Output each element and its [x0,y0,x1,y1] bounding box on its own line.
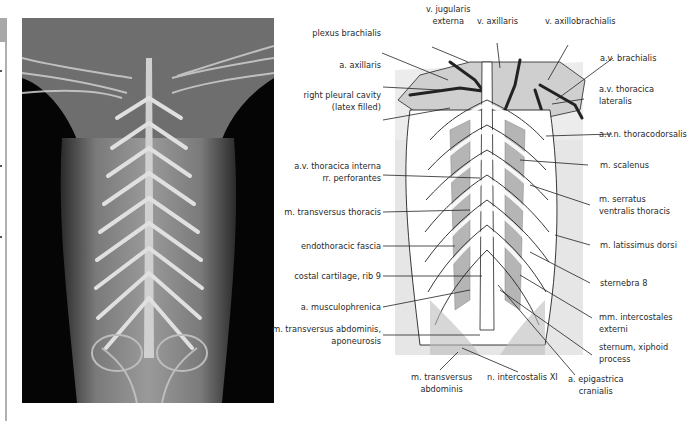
label-line: cranialis [568,385,624,397]
label-line: v. jugularis [426,3,470,15]
label-line: a. epigastrica [568,373,624,385]
label-line: abdominis [411,383,472,395]
label-line: externa [426,15,470,27]
label-sternebra-8: sternebra 8 [600,277,647,289]
label-n-intercostalis-xi: n. intercostalis XI [487,371,558,383]
label-line: process [599,353,668,365]
label-m-serratus: m. serratus ventralis thoracis [599,193,670,217]
label-line: m. serratus [599,193,670,205]
label-line: rr. perforantes [294,172,381,184]
label-m-transversus-abdominis-aponeurosis: m. transversus abdominis, aponeurosis [272,323,381,347]
label-line: sternum, xiphoid [599,341,668,353]
label-line: a.v. thoracica [599,83,654,95]
label-m-scalenus: m. scalenus [600,159,649,171]
label-line: a.v. thoracica interna [294,160,381,172]
label-v-axillaris: v. axillaris [477,15,518,27]
label-v-jugularis-externa: v. jugularis externa [426,3,470,27]
label-av-thoracica-interna: a.v. thoracica interna rr. perforantes [294,160,381,184]
label-line: lateralis [599,95,654,107]
label-av-thoracica-lateralis: a.v. thoracica lateralis [599,83,654,107]
label-a-musculophrenica: a. musculophrenica [301,301,381,313]
label-line: right pleural cavity [304,89,382,101]
label-plexus-brachialis: plexus brachialis [312,27,381,39]
label-m-transversus-thoracis: m. transversus thoracis [284,206,381,218]
label-sternum-xiphoid: sternum, xiphoid process [599,341,668,365]
label-line: ventralis thoracis [599,205,670,217]
label-endothoracic-fascia: endothoracic fascia [301,240,381,252]
label-m-transversus-abdominis: m. transversus abdominis [411,371,472,395]
label-line: m. transversus abdominis, [272,323,381,335]
label-line: m. transversus [411,371,472,383]
label-av-brachialis: a.v. brachialis [600,52,656,64]
label-v-axillobrachialis: v. axillobrachialis [545,15,616,27]
label-a-epigastrica-cranialis: a. epigastrica cranialis [568,373,624,397]
label-costal-cartilage: costal cartilage, rib 9 [294,270,381,282]
label-right-pleural-cavity: right pleural cavity (latex filled) [304,89,382,113]
label-line: aponeurosis [272,335,381,347]
label-avn-thoracodorsalis: a.v.n. thoracodorsalis [599,128,687,140]
label-a-axillaris: a. axillaris [339,59,381,71]
label-m-latissimus-dorsi: m. latissimus dorsi [600,239,677,251]
label-line: (latex filled) [304,101,382,113]
label-line: mm. intercostales [599,311,673,323]
label-mm-intercostales-externi: mm. intercostales externi [599,311,673,335]
label-line: externi [599,323,673,335]
